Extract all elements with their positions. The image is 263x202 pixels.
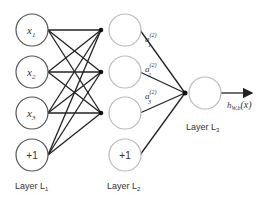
neural-network-diagram: x1 x2 x3 +1 +1 a(2) 1 a(2) 2 a(2) 3 hW,b… <box>0 0 263 202</box>
svg-text:1: 1 <box>148 42 151 48</box>
bias-label: +1 <box>119 150 131 161</box>
output-label: hW,b(x) <box>227 99 252 111</box>
layer2-label: Layer L2 <box>107 181 141 192</box>
layer1-label: Layer L1 <box>15 181 49 192</box>
hidden-node-3 <box>109 97 141 129</box>
input-node-x1 <box>16 14 48 46</box>
hidden-node-1 <box>109 14 141 46</box>
bias-label: +1 <box>26 150 38 161</box>
input-node-x2 <box>16 56 48 88</box>
edges-layer1-to-layer2 <box>48 30 101 155</box>
svg-text:3: 3 <box>147 99 151 105</box>
output-node <box>189 77 221 109</box>
input-node-x3 <box>16 97 48 129</box>
hidden-node-2 <box>109 56 141 88</box>
svg-text:2: 2 <box>148 72 151 78</box>
layer3-label: Layer L3 <box>186 122 220 133</box>
layer2-nodes <box>109 14 141 171</box>
